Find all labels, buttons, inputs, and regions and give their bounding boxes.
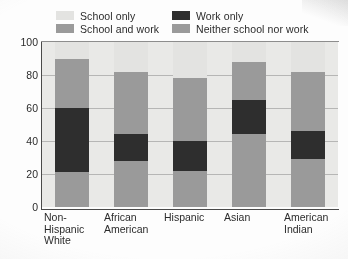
bar-group [114,42,148,207]
legend-swatch-work-only [172,11,190,20]
y-axis-tick-0: 0 [8,201,38,213]
bar-segment [232,134,266,207]
y-axis-tick-40: 40 [8,135,38,147]
y-axis-tick-100: 100 [8,36,38,48]
chart-legend: School only Work only School and work Ne… [56,9,324,37]
bar-segment [291,159,325,207]
bar-segment [291,42,325,72]
bar-segment [173,42,207,78]
bar-segment [173,141,207,171]
x-axis-line [41,209,339,210]
plot-wrapper: 100806040200 [0,38,348,218]
x-axis-label: Hispanic [164,212,204,224]
y-axis-tick-60: 60 [8,102,38,114]
x-axis-label: American Indian [284,212,328,235]
y-axis-tick-20: 20 [8,168,38,180]
bar-segment [114,161,148,207]
y-axis: 100806040200 [8,38,38,208]
bar-group [291,42,325,207]
bar-segment [114,72,148,135]
x-axis-label: Non- Hispanic White [44,212,84,247]
bar-group [232,42,266,207]
bar-segment [291,72,325,131]
chart-root: School only Work only School and work Ne… [0,0,348,259]
y-axis-tick-80: 80 [8,69,38,81]
bar-segment [55,42,89,59]
legend-row-1: School only Work only [56,9,324,22]
bar-segment [173,171,207,207]
plot-area [42,42,338,207]
x-axis-label: Asian [224,212,250,224]
x-axis-label: African American [104,212,148,235]
legend-swatch-neither [172,24,190,33]
bar-segment [55,108,89,172]
legend-item-school-only: School only [56,10,172,22]
bar-segment [232,42,266,62]
bar-group [173,42,207,207]
legend-item-school-and-work: School and work [56,23,172,35]
bar-segment [114,134,148,160]
legend-item-neither: Neither school nor work [172,23,324,35]
bar-segment [232,62,266,100]
legend-swatch-school-and-work [56,24,74,33]
x-axis-labels: Non- Hispanic WhiteAfrican AmericanHispa… [42,212,342,258]
y-axis-line [41,42,42,210]
legend-label-work-only: Work only [196,10,243,22]
bar-segment [173,78,207,141]
bar-segment [55,172,89,207]
bar-segment [291,131,325,159]
legend-item-work-only: Work only [172,10,324,22]
legend-label-school-only: School only [80,10,135,22]
bar-segment [232,100,266,135]
legend-row-2: School and work Neither school nor work [56,22,324,35]
bar-segment [114,42,148,72]
legend-swatch-school-only [56,11,74,20]
legend-label-school-and-work: School and work [80,23,159,35]
bar-segment [55,59,89,109]
bar-group [55,42,89,207]
legend-label-neither: Neither school nor work [196,23,309,35]
